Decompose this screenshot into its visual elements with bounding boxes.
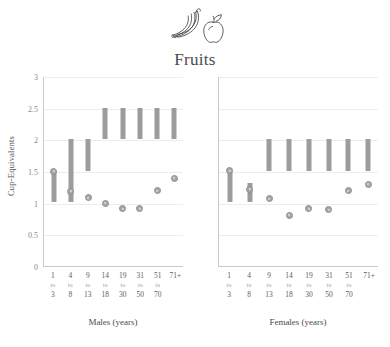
y-axis-label: Cup-Equivalents bbox=[6, 182, 16, 196]
range-bar bbox=[306, 139, 311, 171]
category-group bbox=[114, 77, 131, 265]
range-bar bbox=[137, 108, 142, 140]
average-intake-marker bbox=[305, 205, 312, 212]
y-tick: 1.5 bbox=[28, 168, 38, 177]
average-intake-marker bbox=[136, 205, 143, 212]
fruits-chart-page: Fruits Cup-Equivalents 3 2.5 2 1.5 1 0.5… bbox=[0, 0, 390, 347]
category-group bbox=[260, 77, 280, 265]
x-tick-label: 51to70 bbox=[339, 271, 359, 300]
range-bar bbox=[227, 171, 232, 203]
x-tick-label: 19to30 bbox=[114, 271, 132, 300]
series-females bbox=[220, 77, 378, 265]
x-tick-label: 1to3 bbox=[44, 271, 62, 300]
category-group bbox=[220, 77, 240, 265]
x-axis-ticks-males: 1to34to89to1314to1819to3031to5051to7071+ bbox=[44, 271, 184, 313]
category-group bbox=[149, 77, 166, 265]
plot-females bbox=[218, 77, 378, 267]
range-bar bbox=[346, 139, 351, 171]
average-intake-marker bbox=[119, 205, 126, 212]
x-tick-label: 4to8 bbox=[62, 271, 80, 300]
chart-header: Fruits bbox=[0, 0, 390, 68]
x-tick-label: 71+ bbox=[167, 271, 185, 300]
range-bar bbox=[172, 108, 177, 140]
category-group bbox=[279, 77, 299, 265]
range-bar bbox=[51, 171, 56, 203]
average-intake-marker bbox=[154, 187, 161, 194]
category-group bbox=[240, 77, 260, 265]
x-tick-label: 4to8 bbox=[239, 271, 259, 300]
chart-area: Cup-Equivalents 3 2.5 2 1.5 1 0.5 0 1to3… bbox=[0, 72, 390, 347]
y-tick: 3 bbox=[34, 73, 38, 82]
x-axis-title-females: Females (years) bbox=[218, 317, 378, 327]
x-axis-title-males: Males (years) bbox=[43, 317, 183, 327]
panel-males bbox=[43, 77, 183, 267]
banana-apple-icon bbox=[158, 6, 232, 50]
x-tick-label: 14to18 bbox=[279, 271, 299, 300]
x-axis-ticks-females: 1to34to89to1314to1819to3031to5051to7071+ bbox=[219, 271, 379, 313]
x-tick-label: 31to50 bbox=[132, 271, 150, 300]
page-title: Fruits bbox=[174, 51, 215, 68]
y-tick: 2.5 bbox=[28, 104, 38, 113]
range-bar bbox=[103, 108, 108, 140]
range-bar bbox=[86, 139, 91, 171]
y-tick: 0.5 bbox=[28, 231, 38, 240]
category-group bbox=[339, 77, 359, 265]
category-group bbox=[80, 77, 97, 265]
y-tick: 2 bbox=[34, 136, 38, 145]
x-tick-label: 19to30 bbox=[299, 271, 319, 300]
average-intake-marker bbox=[325, 206, 332, 213]
series-males bbox=[45, 77, 183, 265]
x-tick-label: 14to18 bbox=[97, 271, 115, 300]
panel-females bbox=[218, 77, 378, 267]
category-group bbox=[97, 77, 114, 265]
x-tick-label: 1to3 bbox=[219, 271, 239, 300]
category-group bbox=[166, 77, 183, 265]
average-intake-marker bbox=[85, 194, 92, 201]
average-intake-marker bbox=[50, 168, 57, 175]
average-intake-marker bbox=[246, 186, 253, 193]
category-group bbox=[299, 77, 319, 265]
average-intake-marker bbox=[365, 181, 372, 188]
category-group bbox=[358, 77, 378, 265]
range-bar bbox=[326, 139, 331, 171]
average-intake-marker bbox=[102, 200, 109, 207]
x-tick-label: 9to13 bbox=[259, 271, 279, 300]
range-bar bbox=[267, 139, 272, 171]
y-tick: 0 bbox=[34, 263, 38, 272]
range-bar bbox=[366, 139, 371, 171]
plot-males bbox=[43, 77, 183, 267]
category-group bbox=[319, 77, 339, 265]
y-axis-ticks: 3 2.5 2 1.5 1 0.5 0 bbox=[20, 77, 40, 267]
x-tick-label: 9to13 bbox=[79, 271, 97, 300]
x-tick-label: 51to70 bbox=[149, 271, 167, 300]
x-tick-label: 71+ bbox=[359, 271, 379, 300]
average-intake-marker bbox=[345, 187, 352, 194]
category-group bbox=[45, 77, 62, 265]
category-group bbox=[62, 77, 79, 265]
average-intake-marker bbox=[171, 175, 178, 182]
range-bar bbox=[287, 139, 292, 171]
range-bar bbox=[155, 108, 160, 140]
average-intake-marker bbox=[286, 212, 293, 219]
average-intake-marker bbox=[266, 195, 273, 202]
range-bar bbox=[120, 108, 125, 140]
x-tick-label: 31to50 bbox=[319, 271, 339, 300]
y-tick: 1 bbox=[34, 199, 38, 208]
category-group bbox=[131, 77, 148, 265]
